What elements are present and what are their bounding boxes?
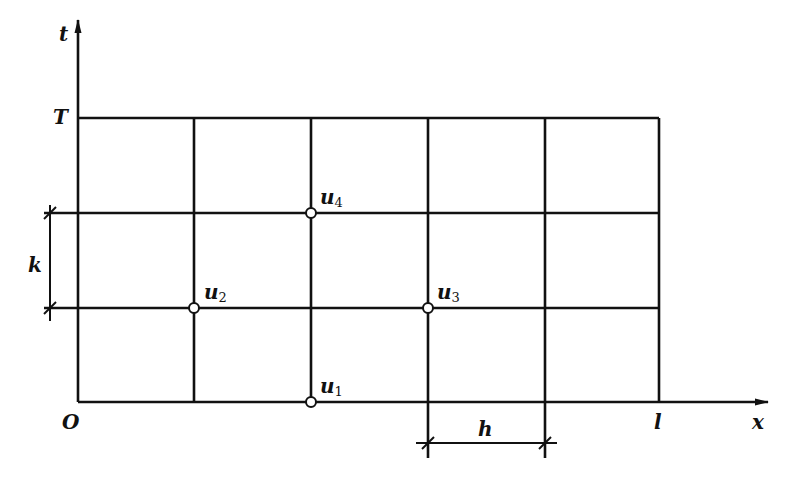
node-u4 bbox=[306, 208, 316, 218]
node-u1-label: u1 bbox=[320, 376, 343, 398]
k-label: k bbox=[28, 255, 42, 275]
node-u3 bbox=[423, 303, 433, 313]
l-label: l bbox=[654, 412, 662, 432]
t-axis-label: t bbox=[59, 24, 68, 44]
h-label: h bbox=[478, 419, 493, 439]
node-u2-label: u2 bbox=[204, 282, 227, 304]
grid-diagram bbox=[0, 0, 801, 477]
node-u3-label: u3 bbox=[437, 282, 460, 304]
x-axis-label: x bbox=[752, 412, 764, 432]
node-u2 bbox=[189, 303, 199, 313]
node-u1 bbox=[306, 397, 316, 407]
node-u4-label: u4 bbox=[320, 187, 343, 209]
origin-label: O bbox=[62, 412, 79, 432]
T-label: T bbox=[53, 107, 68, 127]
